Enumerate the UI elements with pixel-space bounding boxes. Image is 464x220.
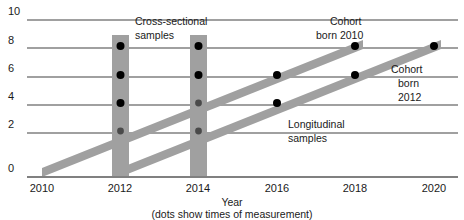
- dot-2014-2: [195, 128, 202, 135]
- y-tick-0: 0: [8, 162, 14, 174]
- cohort-2012-label-line1: Cohort: [391, 63, 423, 75]
- dot-2012-8: [117, 42, 125, 50]
- caption-year: Year: [221, 196, 243, 208]
- dot-c2012-2018-6: [351, 71, 359, 79]
- chart-background: [0, 0, 464, 220]
- x-tick-2018: 2018: [343, 182, 367, 194]
- x-tick-2020: 2020: [422, 182, 446, 194]
- dot-c2010-2016-6: [273, 71, 281, 79]
- dot-2012-4: [117, 99, 125, 107]
- x-tick-2016: 2016: [265, 182, 289, 194]
- x-tick-2012: 2012: [108, 182, 132, 194]
- longitudinal-label-line2: samples: [288, 132, 327, 144]
- x-tick-2014: 2014: [186, 182, 210, 194]
- y-tick-6: 6: [8, 62, 14, 74]
- chart-container: 10 8 6 4 2 0 2010 2012 2014 2016 2018 20…: [0, 0, 464, 220]
- y-tick-8: 8: [8, 34, 14, 46]
- cohort-2010-label-line1: Cohort: [330, 15, 362, 27]
- dot-c2012-2016-4: [273, 99, 281, 107]
- dot-2014-8: [195, 42, 203, 50]
- y-tick-10: 10: [8, 5, 20, 17]
- caption-note: (dots show times of measurement): [151, 208, 312, 220]
- cohort-2012-label-line3: 2012: [398, 91, 422, 103]
- y-tick-2: 2: [8, 118, 14, 130]
- dot-2014-6: [195, 71, 203, 79]
- dot-2014-4: [195, 100, 202, 107]
- cohort-2012-label-line2: born: [398, 77, 419, 89]
- dot-2012-2: [117, 128, 124, 135]
- cohort-2010-label-line2: born 2010: [316, 29, 363, 41]
- dot-2012-6: [117, 71, 125, 79]
- age-period-cohort-chart: 10 8 6 4 2 0 2010 2012 2014 2016 2018 20…: [0, 0, 464, 220]
- dot-c2012-2020-8: [430, 42, 438, 50]
- longitudinal-label-line1: Longitudinal: [288, 118, 345, 130]
- x-tick-2010: 2010: [30, 182, 54, 194]
- cross-sectional-label-line2: samples: [135, 29, 174, 41]
- dot-c2010-2018-8: [351, 42, 359, 50]
- y-tick-4: 4: [8, 90, 14, 102]
- cross-sectional-label-line1: Cross-sectional: [135, 15, 207, 27]
